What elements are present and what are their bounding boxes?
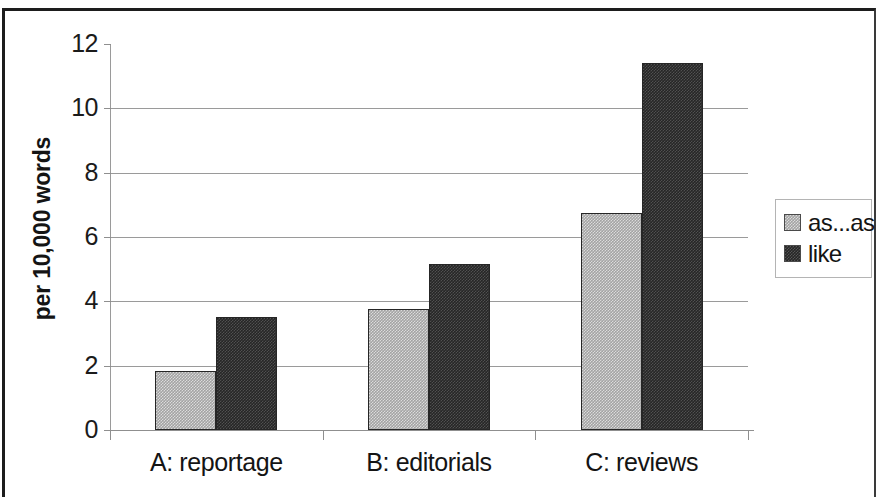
legend-item: as...as (784, 207, 865, 238)
legend-label: like (808, 242, 842, 266)
legend-label: as...as (808, 211, 875, 235)
plot-area (110, 44, 748, 430)
x-axis-tick-label: C: reviews (535, 448, 748, 477)
y-axis-tick (104, 108, 111, 109)
bar-3-1 (581, 213, 642, 430)
y-axis-tick-label: 6 (54, 224, 98, 249)
y-axis-tick-label: 8 (54, 160, 98, 185)
x-axis-tick (110, 430, 111, 440)
x-axis-tick (535, 430, 536, 440)
legend-swatch-icon (784, 214, 801, 231)
y-axis-tick-label: 2 (54, 353, 98, 378)
bar-1-2 (216, 317, 277, 430)
y-axis-tick-label: 10 (54, 95, 98, 120)
y-axis-tick (104, 173, 111, 174)
y-axis-tick-label: 0 (54, 417, 98, 442)
figure: per 10,000 words 121086420 as...aslike A… (0, 0, 880, 499)
y-axis-tick-label: 12 (54, 31, 98, 56)
x-axis-tick (323, 430, 324, 440)
bar-2-1 (368, 309, 429, 430)
x-axis-tick-label: A: reportage (110, 448, 323, 477)
y-axis-tick-labels: 121086420 (34, 0, 98, 499)
y-axis-tick (104, 301, 111, 302)
x-axis-line (104, 430, 754, 431)
x-axis-tick (748, 430, 749, 440)
legend-swatch-icon (784, 245, 801, 262)
bar-2-2 (429, 264, 490, 430)
x-axis-tick-label: B: editorials (323, 448, 536, 477)
bar-3-2 (642, 63, 703, 430)
y-axis-tick (104, 237, 111, 238)
y-axis-tick-label: 4 (54, 288, 98, 313)
y-axis-tick (104, 44, 111, 45)
bar-1-1 (155, 371, 216, 431)
legend: as...aslike (775, 199, 872, 278)
legend-item: like (784, 238, 865, 269)
y-axis-tick (104, 366, 111, 367)
